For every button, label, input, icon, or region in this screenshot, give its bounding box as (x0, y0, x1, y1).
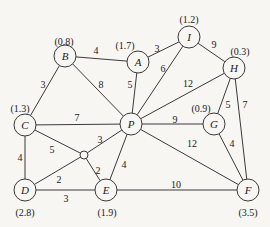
edge-weight-label: 5 (50, 144, 55, 155)
junction-node (80, 151, 88, 159)
edge-weight-label: 8 (99, 79, 104, 90)
edge-weight-label: 9 (173, 114, 178, 125)
node-weight-label: (1.2) (179, 14, 198, 26)
edge-b-c (31, 66, 60, 116)
node-weight-label: (1.3) (10, 103, 29, 115)
node-e: E(1.9) (95, 179, 117, 219)
edge-weight-label: 5 (226, 99, 231, 110)
weighted-graph-diagram: B(0.8)A(1.7)I(1.2)H(0.3)C(1.3)PG(0.9)D(2… (0, 0, 270, 227)
node-h: H(0.3) (223, 46, 250, 80)
node-label: B (62, 50, 69, 62)
edge-weight-label: 7 (75, 112, 80, 123)
edge-weight-label: 3 (64, 193, 69, 204)
node-b: B(0.8) (54, 36, 76, 68)
node-p: P (120, 113, 142, 135)
edge-weight-label: 3 (41, 79, 46, 90)
edge-weight-label: 2 (96, 165, 101, 176)
node-label: A (134, 56, 142, 68)
node-weight-label: (1.9) (97, 207, 116, 219)
edge-weight-label: 3 (155, 43, 160, 54)
edge-c-p (36, 124, 120, 125)
edge-weight-label: 4 (230, 138, 235, 149)
edge-weight-label: 10 (171, 179, 181, 190)
edge-b-p (73, 64, 124, 116)
node-weight-label: (1.7) (115, 40, 134, 52)
edge-weight-label: 4 (94, 45, 99, 56)
node-label: P (127, 118, 135, 130)
node-weight-label: (3.5) (238, 207, 257, 219)
node-label: F (244, 184, 252, 196)
edge-e-p (110, 134, 127, 179)
node-weight-label: (0.3) (230, 46, 249, 58)
edge-p-j (87, 130, 121, 153)
junction-circle (80, 151, 88, 159)
edge-weight-label: 12 (187, 138, 197, 149)
edge-weight-label: 2 (57, 174, 62, 185)
node-i: I(1.2) (178, 14, 200, 49)
node-label: D (20, 184, 29, 196)
edge-c-j (35, 130, 81, 153)
edge-weight-label: 5 (128, 79, 133, 90)
node-d: D(2.8) (14, 179, 36, 219)
node-weight-label: (2.8) (15, 207, 34, 219)
node-label: E (102, 184, 110, 196)
edge-weight-label: 4 (122, 159, 127, 170)
node-weight-label: (0.9) (191, 103, 210, 115)
node-a: A(1.7) (115, 40, 149, 74)
edge-h-f (235, 79, 246, 179)
node-label: G (210, 118, 218, 130)
node-weight-label: (0.8) (54, 36, 73, 48)
nodes: B(0.8)A(1.7)I(1.2)H(0.3)C(1.3)PG(0.9)D(2… (10, 14, 259, 219)
edge-b-a (76, 57, 127, 61)
edge-weight-label: 4 (18, 152, 23, 163)
edge-weight-label: 3 (98, 134, 103, 145)
edge-weight-label: 9 (212, 39, 217, 50)
edge-a-p (132, 73, 137, 113)
node-label: C (21, 119, 29, 131)
node-f: F(3.5) (237, 179, 259, 219)
edge-weight-label: 6 (161, 63, 166, 74)
node-label: H (229, 62, 239, 74)
edge-weight-label: 12 (183, 78, 193, 89)
edge-weight-label: 7 (243, 99, 248, 110)
edge-a-i (148, 42, 179, 57)
node-c: C(1.3) (10, 103, 36, 137)
